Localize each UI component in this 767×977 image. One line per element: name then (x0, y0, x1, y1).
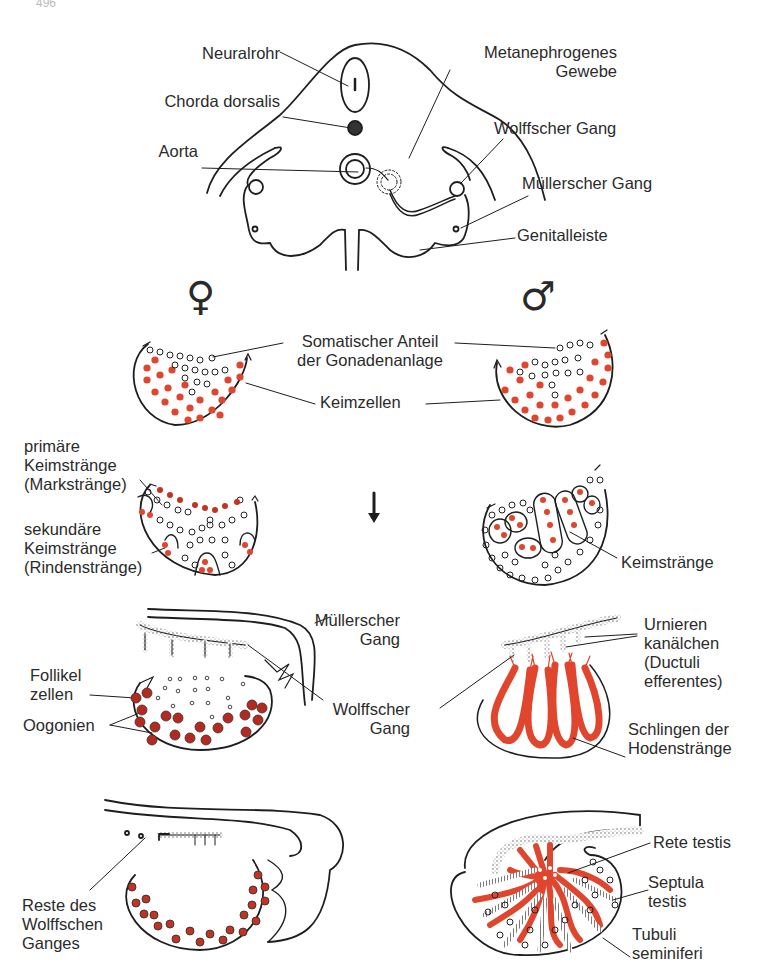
label-aorta: Aorta (159, 142, 198, 161)
label-reste-line3: Ganges (22, 934, 103, 953)
label-follikelzellen: Follikel zellen (30, 666, 81, 704)
label-wolff-line1: Wolffscher (333, 700, 410, 719)
label-rete-testis: Rete testis (653, 833, 731, 852)
label-tubuli-line1: Tubuli (632, 925, 703, 944)
label-urnieren-line3: (Ductuli (644, 653, 723, 672)
label-somatischer-anteil: Somatischer Anteil der Gonadenanlage (284, 332, 456, 370)
label-reste-des-wolffschen-ganges: Reste des Wolffschen Ganges (22, 896, 103, 953)
label-chorda-dorsalis: Chorda dorsalis (164, 92, 280, 111)
label-metanephrogenes: Metanephrogenes Gewebe (484, 43, 617, 81)
label-reste-line2: Wolffschen (22, 915, 103, 934)
label-follikel-line2: zellen (30, 685, 81, 704)
label-schlingen-line2: Hodenstränge (628, 739, 732, 758)
label-neuralrohr: Neuralrohr (202, 44, 280, 63)
label-urnieren-line4: efferentes) (644, 672, 723, 691)
label-schlingen-line1: Schlingen der (628, 720, 732, 739)
label-oogonien: Oogonien (23, 716, 95, 735)
female-symbol-icon: ♀ (186, 276, 215, 316)
female-gonad-stage4 (90, 800, 343, 950)
label-tubuli-line2: seminiferi (632, 944, 703, 963)
label-sekundaere-keimstraenge: sekundäre Keimstränge (Rindenstränge) (24, 520, 142, 577)
oogonia (131, 688, 267, 745)
male-symbol-icon: ♂ (520, 276, 556, 316)
male-gonad-stage4 (451, 811, 650, 957)
label-metanephrogenes-line1: Metanephrogenes (484, 43, 617, 62)
male-gonad-stage3 (440, 618, 637, 758)
label-muellerscher-gang-top: Müllerscher Gang (522, 174, 652, 193)
label-primaere-line2: Keimstränge (24, 456, 127, 475)
label-sekundaere-line2: Keimstränge (24, 539, 142, 558)
label-mueller-line1: Müllerscher (315, 611, 400, 630)
label-wolffscher-gang-top: Wolffscher Gang (494, 119, 616, 138)
label-urnierenkanaelchen: Urnieren kanälchen (Ductuli efferentes) (644, 615, 723, 691)
label-somatischer-line1: Somatischer Anteil (284, 332, 456, 351)
label-wolffscher-gang: Wolffscher Gang (333, 700, 410, 738)
label-sekundaere-line1: sekundäre (24, 520, 142, 539)
label-primaere-keimstraenge: primäre Keimstränge (Markstränge) (24, 437, 127, 494)
label-muellerscher-gang: Müllerscher Gang (315, 611, 400, 649)
label-urnieren-line1: Urnieren (644, 615, 723, 634)
label-sekundaere-line3: (Rindenstränge) (24, 558, 142, 577)
male-gonad-stage1 (494, 330, 613, 427)
label-schlingen-der-hodenstraenge: Schlingen der Hodenstränge (628, 720, 732, 758)
label-genitalleiste: Genitalleiste (517, 226, 608, 245)
label-mueller-line2: Gang (315, 630, 400, 649)
label-urnieren-line2: kanälchen (644, 634, 723, 653)
female-gonad-stage3 (90, 609, 330, 750)
label-keimstraenge-male: Keimstränge (621, 553, 714, 572)
label-septula-line1: Septula (648, 873, 704, 892)
label-primaere-line1: primäre (24, 437, 127, 456)
label-reste-line1: Reste des (22, 896, 103, 915)
label-metanephrogenes-line2: Gewebe (484, 62, 617, 81)
label-primaere-line3: (Markstränge) (24, 475, 127, 494)
label-wolff-line2: Gang (333, 719, 410, 738)
label-somatischer-line2: der Gonadenanlage (284, 351, 456, 370)
label-tubuli-seminiferi: Tubuli seminiferi (632, 925, 703, 963)
label-follikel-line1: Follikel (30, 666, 81, 685)
label-septula-testis: Septula testis (648, 873, 704, 911)
label-septula-line2: testis (648, 892, 704, 911)
female-gonad-stage1 (134, 342, 251, 425)
label-keimzellen: Keimzellen (320, 393, 401, 412)
